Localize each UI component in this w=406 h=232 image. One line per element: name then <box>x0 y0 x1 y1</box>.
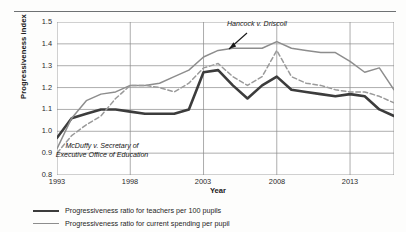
annotation-hancock: Hancock v. Driscoll <box>227 20 331 29</box>
annotation-mcduffy: McDuffy v. Secretary of Executive Office… <box>50 142 154 160</box>
legend-label-spending: Progressiveness ratio for current spendi… <box>65 219 230 228</box>
y-tick-1.2: 1.2 <box>26 84 52 92</box>
y-tick-1.5: 1.5 <box>26 18 52 26</box>
y-tick-1.4: 1.4 <box>26 40 52 48</box>
x-tick-2003: 2003 <box>183 178 223 186</box>
x-axis-label: Year <box>0 186 406 195</box>
x-tick-2008: 2008 <box>257 178 297 186</box>
x-tick-1998: 1998 <box>110 178 150 186</box>
y-tick-1.0: 1.0 <box>26 127 52 135</box>
x-tick-1993: 1993 <box>37 178 77 186</box>
legend-item-spending: Progressiveness ratio for current spendi… <box>33 217 333 230</box>
legend-swatch-teachers-icon <box>33 210 59 212</box>
legend-label-teachers: Progressiveness ratio for teachers per 1… <box>65 206 221 215</box>
legend-item-teachers: Progressiveness ratio for teachers per 1… <box>33 204 333 217</box>
page-rule <box>14 11 396 12</box>
y-tick-0.9: 0.9 <box>26 149 52 157</box>
x-tick-2013: 2013 <box>330 178 370 186</box>
chart-legend: Progressiveness ratio for teachers per 1… <box>33 204 333 230</box>
y-tick-1.3: 1.3 <box>26 62 52 70</box>
y-tick-1.1: 1.1 <box>26 105 52 113</box>
chart-figure: Progressiveness index 1.5 1.4 1.3 1.2 1.… <box>0 0 406 232</box>
legend-swatch-spending-icon <box>33 223 59 224</box>
